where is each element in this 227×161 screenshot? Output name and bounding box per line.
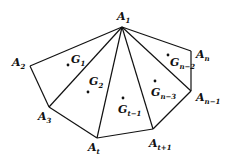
vertex-label-At: At [87, 141, 101, 156]
centroid-dot-Gt-1 [122, 97, 125, 100]
vertex-label-A1: A1 [116, 10, 130, 25]
centroid-dot-G2 [87, 91, 90, 94]
edge-At-At+1 [97, 129, 153, 138]
polygon-edges [30, 27, 191, 138]
centroid-label-Gn-3: Gn−3 [151, 86, 176, 101]
centroid-label-G2: G2 [89, 75, 103, 90]
centroid-dot-G1 [67, 64, 70, 67]
centroid-label-Gt-1: Gt−1 [118, 103, 141, 118]
centroid-dot-Gn-2 [167, 54, 170, 57]
centroid-label-G1: G1 [71, 53, 85, 68]
vertex-label-A3: A3 [37, 110, 52, 125]
vertex-label-An-1: An−1 [195, 91, 220, 106]
polygon-triangulation-diagram: A1A2A3AtAt+1An−1AnG1G2Gt−1Gn−3Gn−2 [0, 0, 227, 161]
edge-A1-A3 [49, 27, 122, 107]
point-labels: A1A2A3AtAt+1An−1AnG1G2Gt−1Gn−3Gn−2 [11, 10, 220, 156]
edge-An-A1 [122, 27, 191, 51]
vertex-label-A2: A2 [11, 56, 26, 71]
edge-A2-A3 [30, 66, 49, 107]
vertex-label-At+1: At+1 [148, 137, 172, 152]
centroid-dot-Gn-3 [154, 80, 157, 83]
vertex-label-An: An [195, 48, 210, 63]
edge-A3-At [49, 107, 97, 138]
